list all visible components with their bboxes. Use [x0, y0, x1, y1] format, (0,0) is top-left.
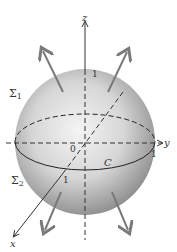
origin-label: 0: [70, 144, 76, 154]
x-axis-label: x: [10, 238, 16, 249]
y-axis-label: y: [163, 137, 170, 148]
sphere-diagram: z y x 0 C 1 1 1 Σ1 Σ2: [0, 0, 177, 252]
sigma2-label: Σ2: [11, 174, 24, 188]
x-intercept-label: 1: [63, 175, 69, 185]
z-intercept-label: 1: [92, 69, 98, 79]
z-axis-label: z: [81, 12, 88, 23]
sigma1-label: Σ1: [9, 87, 22, 101]
y-intercept-label: 1: [151, 149, 157, 159]
curve-c-label: C: [104, 157, 112, 168]
